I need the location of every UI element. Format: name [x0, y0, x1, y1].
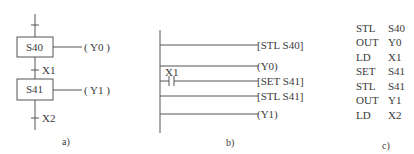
il-arg-3: X1 — [388, 51, 401, 63]
il-op-4: SET — [356, 65, 376, 77]
transition-x2-label: X2 — [42, 112, 55, 124]
step-s41-output: ( Y1 ) — [84, 84, 110, 96]
il-arg-4: S41 — [388, 65, 405, 77]
il-op-5: STL — [356, 80, 376, 92]
diagram-graphics — [0, 0, 414, 154]
step-s40-output: ( Y0 ) — [84, 41, 110, 53]
step-s40-label: S40 — [26, 41, 43, 53]
rung-2-instruction: (Y0) — [257, 60, 278, 72]
transition-x1-label: X1 — [42, 64, 55, 76]
rung-3-instruction: [SET S41] — [257, 75, 304, 87]
panel-c-caption: c) — [382, 140, 390, 152]
panel-b-caption: b) — [226, 137, 234, 149]
il-arg-1: S40 — [388, 22, 405, 34]
panel-a-caption: a) — [62, 136, 70, 148]
il-op-7: LD — [356, 109, 371, 121]
il-op-3: LD — [356, 51, 371, 63]
il-op-2: OUT — [356, 36, 379, 48]
contact-x1-label: X1 — [165, 66, 178, 78]
il-arg-2: Y0 — [388, 36, 401, 48]
rung-1-instruction: [STL S40] — [257, 39, 303, 51]
rung-5-instruction: (Y1) — [257, 108, 278, 120]
il-arg-5: S41 — [388, 80, 405, 92]
rung-4-instruction: [STL S41] — [257, 90, 303, 102]
il-arg-7: X2 — [388, 109, 401, 121]
step-s41-label: S41 — [26, 83, 43, 95]
il-op-6: OUT — [356, 94, 379, 106]
il-op-1: STL — [356, 22, 376, 34]
il-arg-6: Y1 — [388, 94, 401, 106]
